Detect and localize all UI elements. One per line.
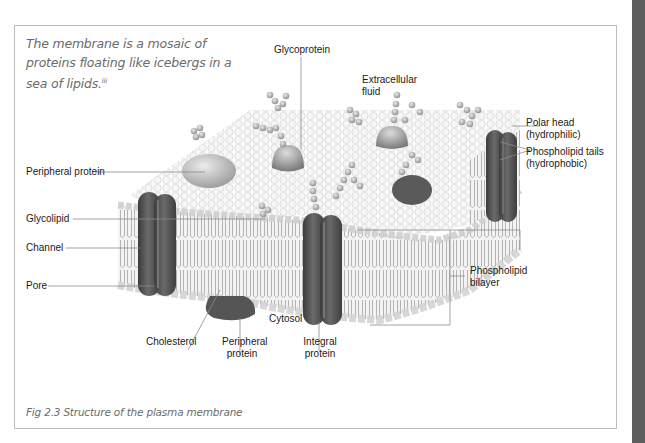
label-polar-head-line2: (hydrophilic) [526,129,580,141]
label-phospholipid-bilayer: Phospholipid bilayer [470,265,527,289]
label-cholesterol: Cholesterol [146,336,197,348]
label-integral-line2: protein [300,348,340,360]
figure-caption: Fig 2.3 Structure of the plasma membrane [26,406,242,418]
peripheral-protein-bottom [206,296,255,320]
label-peripheral-protein-left: Peripheral protein [26,166,105,178]
label-peripheral-protein-bottom: Peripheral protein [222,336,262,360]
label-phospholipid-tails: Phospholipid tails (hydrophobic) [526,146,604,170]
label-extracellular-line2: fluid [362,86,417,98]
peripheral-protein-oval [182,154,236,188]
plasma-membrane-illustration [0,0,645,443]
label-peripheral-bottom-line2: protein [222,348,262,360]
label-bilayer-line2: bilayer [470,277,527,289]
right-integral-protein [486,130,517,222]
label-integral-line1: Integral [300,336,340,348]
label-phospholipid-tails-line1: Phospholipid tails [526,146,604,158]
label-pore: Pore [26,280,47,292]
label-extracellular-fluid: Extracellular fluid [362,74,417,98]
label-extracellular-line1: Extracellular [362,74,417,86]
label-glycolipid: Glycolipid [26,213,69,225]
integral-protein [303,213,342,325]
label-peripheral-bottom-line1: Peripheral [222,336,262,348]
label-bilayer-line1: Phospholipid [470,265,527,277]
label-channel: Channel [26,242,63,254]
label-glycoprotein: Glycoprotein [274,44,330,56]
label-cytosol: Cytosol [269,313,302,325]
label-polar-head-line1: Polar head [526,117,580,129]
label-polar-head: Polar head (hydrophilic) [526,117,580,141]
label-phospholipid-tails-line2: (hydrophobic) [526,158,604,170]
channel-protein [138,192,176,296]
label-integral-protein: Integral protein [300,336,340,360]
